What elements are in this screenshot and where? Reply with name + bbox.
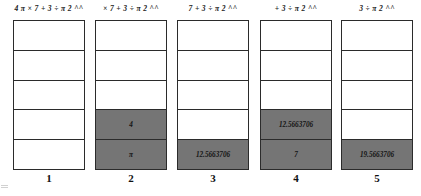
stack-cell [342,81,412,111]
step-expression-2: × 7 + 3 ÷ π 2 ^^ [91,0,171,18]
stack-cell [342,21,412,51]
stack-cell: 12.5663706 [261,110,331,140]
step-expression-4: + 3 ÷ π 2 ^^ [256,0,336,18]
stack-cell [14,21,84,51]
step-label-2: 2 [91,172,171,184]
stack-cell [96,21,166,51]
stack-cell: 12.5663706 [178,140,248,169]
stack-box-3: 12.5663706 [177,20,249,170]
stack-cell [96,81,166,111]
scan-artifact [1,185,8,189]
stack-cell [342,51,412,81]
stack-cell [14,140,84,169]
stack-box-2: 4 π [95,20,167,170]
stack-cell [261,21,331,51]
step-label-1: 1 [9,172,89,184]
stack-cell: 4 [96,110,166,140]
step-column-1: 4 π × 7 + 3 ÷ π 2 ^^ 1 [9,0,89,196]
step-label-3: 3 [173,172,253,184]
stack-box-5: 19.5663706 [341,20,413,170]
stack-cell [14,110,84,140]
stack-cell [261,51,331,81]
stack-cell: π [96,140,166,169]
step-column-5: 3 ÷ π 2 ^^ 19.5663706 5 [337,0,417,196]
stack-cell [178,110,248,140]
stack-cell [96,51,166,81]
stack-cell [342,110,412,140]
stack-cell [178,21,248,51]
stack-cell [178,81,248,111]
stack-cell [178,51,248,81]
step-label-4: 4 [256,172,336,184]
step-column-4: + 3 ÷ π 2 ^^ 12.5663706 7 4 [256,0,336,196]
step-expression-5: 3 ÷ π 2 ^^ [337,0,417,18]
stack-cell [261,81,331,111]
step-label-5: 5 [337,172,417,184]
stack-cell [14,81,84,111]
stack-evaluation-diagram: 4 π × 7 + 3 ÷ π 2 ^^ 1 × 7 + 3 ÷ π 2 ^^ … [0,0,421,196]
stack-box-1 [13,20,85,170]
stack-cell [14,51,84,81]
stack-cell: 7 [261,140,331,169]
step-expression-1: 4 π × 7 + 3 ÷ π 2 ^^ [9,0,89,18]
stack-box-4: 12.5663706 7 [260,20,332,170]
step-column-3: 7 + 3 ÷ π 2 ^^ 12.5663706 3 [173,0,253,196]
step-expression-3: 7 + 3 ÷ π 2 ^^ [173,0,253,18]
step-column-2: × 7 + 3 ÷ π 2 ^^ 4 π 2 [91,0,171,196]
stack-cell: 19.5663706 [342,140,412,169]
